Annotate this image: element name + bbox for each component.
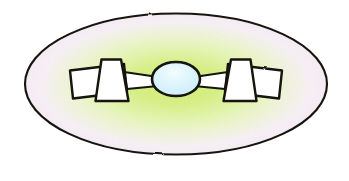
diagram-svg <box>0 0 349 181</box>
core-blob <box>152 62 200 96</box>
core-blob-shape <box>152 62 200 96</box>
figure-canvas <box>0 0 349 181</box>
